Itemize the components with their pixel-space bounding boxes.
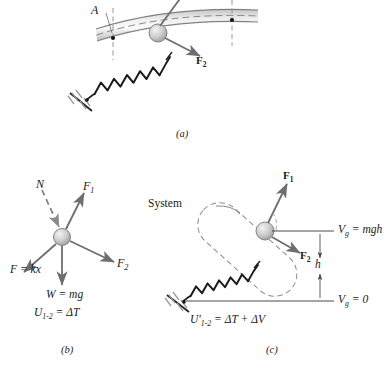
spring-c bbox=[182, 261, 260, 302]
datum-lower-label: Vg = 0 bbox=[338, 294, 368, 308]
force2-arrow-b bbox=[70, 241, 114, 262]
equation-c: U'1-2 = ΔT + ΔV bbox=[190, 314, 265, 328]
height-label: h bbox=[315, 259, 321, 271]
normal-force-label-b: N bbox=[36, 178, 44, 190]
point-a-label: A bbox=[91, 4, 98, 16]
curved-track bbox=[96, 9, 258, 41]
equation-b: U1-2 = ΔT bbox=[34, 307, 79, 321]
force2-label-a: F2 bbox=[196, 55, 206, 69]
station-b-marker bbox=[230, 0, 234, 46]
datum-upper-label: Vg = mgh bbox=[338, 224, 382, 238]
wall-anchor-c bbox=[165, 292, 189, 312]
force2-label-c: F2 bbox=[300, 250, 310, 264]
panel-c-caption: (c) bbox=[266, 345, 278, 356]
force1-arrow-b bbox=[66, 193, 84, 229]
wall-anchor-a bbox=[68, 90, 92, 111]
spring-force-label-b: F = kx bbox=[10, 264, 41, 276]
system-label-c: System bbox=[148, 198, 182, 210]
force2-label-b: F2 bbox=[117, 257, 128, 273]
panel-a-caption: (a) bbox=[176, 129, 188, 140]
force1-label-c: F1 bbox=[283, 170, 293, 184]
particle-b bbox=[54, 229, 71, 246]
normal-force-arrow-b bbox=[42, 190, 59, 227]
force1-label-b: F1 bbox=[83, 180, 94, 196]
force2-arrow-c bbox=[272, 237, 300, 253]
panel-c bbox=[165, 184, 334, 312]
particle-c bbox=[256, 222, 274, 240]
spring-a bbox=[85, 52, 172, 101]
system-boundary bbox=[189, 194, 306, 306]
weight-label-b: W = mg bbox=[46, 289, 83, 301]
force1-arrow-c bbox=[268, 184, 287, 223]
panel-b-caption: (b) bbox=[61, 345, 73, 356]
particle-a bbox=[149, 24, 167, 42]
